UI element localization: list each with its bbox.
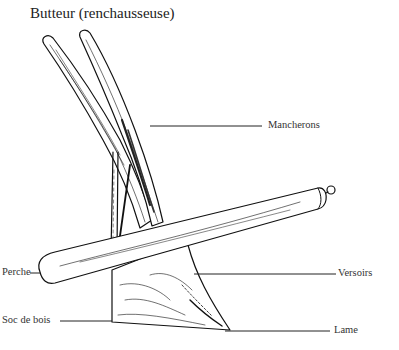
label-versoirs: Versoirs bbox=[338, 267, 372, 278]
plough-illustration bbox=[0, 0, 399, 350]
label-lame: Lame bbox=[334, 324, 358, 335]
right-handle bbox=[80, 30, 163, 226]
label-soc-de-bois: Soc de bois bbox=[2, 314, 50, 325]
label-perche: Perche bbox=[2, 266, 31, 277]
label-mancherons: Mancherons bbox=[268, 119, 320, 130]
